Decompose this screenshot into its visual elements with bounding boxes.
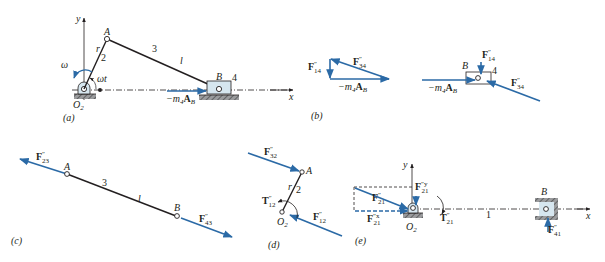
panel-c: F″23 A 3 l B F″43 (c) — [11, 150, 232, 247]
frame-number-e: 1 — [486, 209, 491, 220]
f32-label: F″32 — [264, 145, 278, 160]
crank-number-label: 2 — [101, 52, 106, 63]
f14-label: F″14 — [308, 60, 322, 75]
panel-d: F″32 A r 2 T″12 O2 F″12 (d) — [248, 145, 342, 251]
link-length-c: l — [138, 193, 141, 204]
x-axis-label: x — [288, 91, 294, 102]
pivot-label-e: O2 — [406, 221, 417, 234]
link-3 — [67, 174, 176, 216]
panel-e: y x F″21 F″y21 F″x21 O2 T″21 1 B F″41 (e… — [354, 159, 591, 247]
f21y-label: F″y21 — [415, 180, 429, 195]
point-b-label-e: B — [541, 186, 547, 197]
slider-number-label: 4 — [232, 72, 237, 83]
caption-e: (e) — [355, 235, 367, 247]
point-a-label-d: A — [305, 165, 313, 176]
panel-b-fbd: B 4 F″14 F″34 −m4AB — [422, 48, 540, 101]
inertia-label-b: −m4AB — [338, 81, 368, 94]
coupler-length-label: l — [180, 55, 183, 66]
ground-e — [403, 213, 423, 218]
coupler-link-3 — [107, 39, 219, 89]
caption-d: (d) — [268, 239, 280, 251]
f12-label: F″12 — [313, 210, 327, 225]
inertia-label-fbd: −m4AB — [428, 82, 458, 95]
coupler-number-label: 3 — [152, 43, 157, 54]
x-axis-label-e: x — [585, 210, 591, 221]
caption-c: (c) — [11, 235, 23, 247]
point-b-label-fbd: B — [462, 60, 468, 71]
f23-label: F″23 — [36, 150, 50, 165]
pin-b-e — [544, 207, 549, 212]
pin-b-c — [175, 214, 180, 219]
point-a-label-c: A — [63, 161, 71, 172]
pivot-o2-e — [411, 206, 416, 211]
panel-a: y x −m4AB ω ωt A r 2 3 l — [61, 13, 294, 124]
crank-number-d: 2 — [296, 184, 301, 195]
angle-arc — [90, 78, 96, 89]
slider-number-fbd: 4 — [492, 65, 497, 76]
panel-b-polygon: F″14 F″34 −m4AB (b) — [308, 55, 389, 122]
f34-label-fbd: F″34 — [511, 76, 525, 91]
y-axis-label-e: y — [402, 159, 408, 170]
inertia-force-label: −m4AB — [166, 93, 196, 106]
point-b-label-c: B — [174, 202, 180, 213]
pivot-label-d: O2 — [277, 216, 288, 229]
t12-label: T″12 — [262, 194, 276, 209]
crank-length-d: r — [288, 181, 292, 192]
f41-label: F″41 — [548, 223, 562, 238]
f14-label-fbd: F″14 — [482, 48, 496, 63]
point-a-label: A — [103, 26, 111, 37]
pin-a — [104, 36, 109, 41]
t21-label: T″21 — [440, 211, 454, 226]
angle-label: ωt — [97, 73, 107, 84]
f21-label: F″21 — [372, 191, 386, 206]
crank-length-label: r — [96, 43, 100, 54]
y-axis-label: y — [75, 13, 81, 24]
pin-b-fbd — [476, 76, 481, 81]
f21x-label: F″x21 — [367, 212, 381, 227]
pivot-label: O2 — [73, 99, 84, 112]
ground-slider — [199, 95, 239, 100]
link-number-c: 3 — [102, 177, 107, 188]
pin-a-c — [65, 172, 70, 177]
pin-a-d — [300, 170, 304, 174]
slider-crank-diagram: y x −m4AB ω ωt A r 2 3 l — [0, 0, 605, 262]
caption-a: (a) — [63, 112, 75, 124]
pin-b — [216, 86, 221, 91]
omega-label: ω — [61, 59, 68, 70]
point-b-label: B — [216, 71, 222, 82]
caption-b: (b) — [311, 110, 323, 122]
pivot-o2-d — [280, 210, 284, 214]
